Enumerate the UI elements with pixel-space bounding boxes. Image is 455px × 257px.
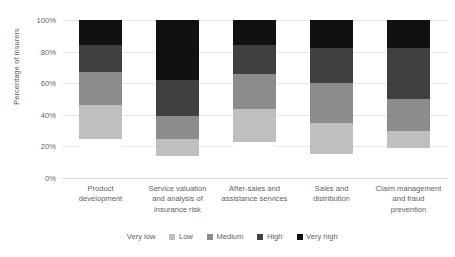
bar-segment[interactable] bbox=[310, 48, 353, 83]
legend-item[interactable]: Medium bbox=[207, 232, 244, 241]
bar-segment[interactable] bbox=[156, 156, 199, 178]
bar-segment[interactable] bbox=[310, 20, 353, 48]
legend-label: Very low bbox=[127, 232, 156, 241]
x-axis-category-label: Claim managementand fraudprevention bbox=[370, 184, 447, 215]
legend-item[interactable]: Very high bbox=[297, 232, 338, 241]
legend-swatch-icon bbox=[207, 234, 213, 240]
x-axis-category-label-line: Product bbox=[63, 184, 138, 194]
bar-segment[interactable] bbox=[156, 80, 199, 116]
bar-segment[interactable] bbox=[79, 45, 122, 72]
bar-stack[interactable] bbox=[79, 20, 122, 178]
legend-swatch-icon bbox=[117, 234, 123, 240]
bar-segment[interactable] bbox=[79, 139, 122, 179]
x-axis-category-label-line: After-sales and bbox=[217, 184, 292, 194]
x-axis-category-label-line: insurance risk bbox=[140, 205, 215, 215]
x-axis-category-label-line: Sales and bbox=[294, 184, 369, 194]
gridline bbox=[62, 178, 447, 179]
x-axis-category-label: After-sales andassistance services bbox=[216, 184, 293, 215]
y-axis-tick-label: 40% bbox=[10, 110, 56, 119]
bar-stack[interactable] bbox=[310, 20, 353, 178]
bar-segment[interactable] bbox=[233, 142, 276, 178]
chart-legend: Very lowLowMediumHighVery high bbox=[0, 232, 455, 241]
stacked-bar-chart: Percentage of insurers 100%80%60%40%20%0… bbox=[0, 0, 455, 257]
bar-column bbox=[370, 20, 447, 178]
legend-item[interactable]: High bbox=[257, 232, 282, 241]
x-axis-category-labels: ProductdevelopmentService valuationand a… bbox=[62, 184, 447, 215]
x-axis-category-label: Sales anddistribution bbox=[293, 184, 370, 215]
legend-swatch-icon bbox=[297, 234, 303, 240]
y-axis-tick-label: 80% bbox=[10, 47, 56, 56]
bar-column bbox=[216, 20, 293, 178]
y-axis-tick-label: 60% bbox=[10, 79, 56, 88]
bar-column bbox=[293, 20, 370, 178]
bar-segment[interactable] bbox=[233, 74, 276, 109]
bar-segment[interactable] bbox=[156, 20, 199, 80]
legend-label: High bbox=[267, 232, 283, 241]
legend-label: Low bbox=[179, 232, 193, 241]
legend-item[interactable]: Low bbox=[169, 232, 192, 241]
bar-segment[interactable] bbox=[79, 105, 122, 138]
x-axis-category-label-line: Service valuation bbox=[140, 184, 215, 194]
bar-segment[interactable] bbox=[156, 139, 199, 156]
bar-segment[interactable] bbox=[387, 99, 430, 131]
bar-segment[interactable] bbox=[310, 154, 353, 178]
x-axis-category-label: Productdevelopment bbox=[62, 184, 139, 215]
x-axis-category-label-line: prevention bbox=[371, 205, 446, 215]
bar-segment[interactable] bbox=[310, 123, 353, 155]
bar-stack[interactable] bbox=[233, 20, 276, 178]
bar-segment[interactable] bbox=[387, 148, 430, 178]
bar-segment[interactable] bbox=[310, 83, 353, 123]
x-axis-category-label-line: and analysis of bbox=[140, 194, 215, 204]
y-axis-tick-label: 20% bbox=[10, 142, 56, 151]
plot-area: 100%80%60%40%20%0% bbox=[62, 20, 447, 178]
x-axis-category-label: Service valuationand analysis ofinsuranc… bbox=[139, 184, 216, 215]
bar-column bbox=[62, 20, 139, 178]
legend-label: Very high bbox=[306, 232, 338, 241]
bar-segment[interactable] bbox=[387, 20, 430, 48]
legend-item[interactable]: Very low bbox=[117, 232, 155, 241]
y-axis-tick-label: 0% bbox=[10, 174, 56, 183]
legend-swatch-icon bbox=[257, 234, 263, 240]
x-axis-category-label-line: distribution bbox=[294, 194, 369, 204]
bar-segment[interactable] bbox=[156, 116, 199, 139]
bar-segment[interactable] bbox=[233, 20, 276, 45]
bar-series-group bbox=[62, 20, 447, 178]
bar-segment[interactable] bbox=[79, 20, 122, 45]
bar-stack[interactable] bbox=[387, 20, 430, 178]
bar-segment[interactable] bbox=[387, 131, 430, 148]
x-axis-category-label-line: and fraud bbox=[371, 194, 446, 204]
legend-swatch-icon bbox=[169, 234, 175, 240]
bar-column bbox=[139, 20, 216, 178]
legend-label: Medium bbox=[216, 232, 243, 241]
x-axis-category-label-line: Claim management bbox=[371, 184, 446, 194]
bar-stack[interactable] bbox=[156, 20, 199, 178]
bar-segment[interactable] bbox=[233, 45, 276, 73]
y-axis-tick-label: 100% bbox=[10, 16, 56, 25]
bar-segment[interactable] bbox=[233, 109, 276, 142]
bar-segment[interactable] bbox=[79, 72, 122, 105]
bar-segment[interactable] bbox=[387, 48, 430, 99]
x-axis-category-label-line: assistance services bbox=[217, 194, 292, 204]
x-axis-category-label-line: development bbox=[63, 194, 138, 204]
